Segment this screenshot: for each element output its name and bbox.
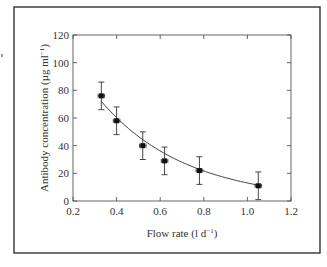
chart: 020406080100120 0.20.40.60.81.01.2 Flow …	[0, 0, 327, 267]
x-tick-label: 1.2	[284, 205, 298, 217]
data-point	[113, 107, 120, 135]
plot-area: 020406080100120 0.20.40.60.81.01.2	[53, 29, 298, 217]
data-points	[98, 82, 262, 200]
y-axis-ticks: 020406080100120	[53, 29, 292, 207]
y-tick-label: 80	[58, 84, 70, 96]
x-tick-label: 0.2	[66, 205, 80, 217]
x-tick-label: 0.8	[197, 205, 211, 217]
fit-curve	[101, 101, 256, 184]
data-point	[161, 147, 168, 175]
y-axis-label: Antibody concentration (µg ml−1)	[38, 44, 51, 192]
y-tick-label: 60	[58, 112, 70, 124]
edge-artifact	[1, 54, 3, 57]
data-point	[196, 157, 203, 185]
x-tick-label: 0.4	[110, 205, 124, 217]
y-tick-label: 120	[53, 29, 70, 41]
y-tick-label: 100	[53, 57, 70, 69]
data-point	[98, 82, 105, 110]
data-point	[139, 132, 146, 160]
data-point	[255, 172, 262, 200]
y-tick-label: 40	[58, 140, 70, 152]
x-axis-label: Flow rate (l d−1)	[147, 227, 218, 240]
x-tick-label: 1.0	[241, 205, 255, 217]
x-axis-ticks: 0.20.40.60.81.01.2	[66, 35, 298, 217]
y-tick-label: 20	[58, 167, 70, 179]
x-tick-label: 0.6	[153, 205, 167, 217]
